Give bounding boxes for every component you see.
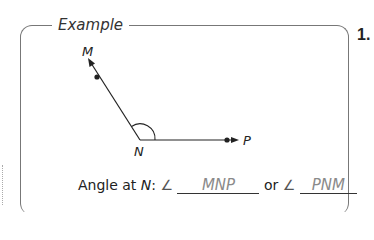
angle-question: Angle at N: ∠ MNP or ∠ PNM [78, 176, 357, 194]
label-n: N [134, 145, 144, 159]
angle-symbol-icon-2: ∠ [283, 177, 296, 193]
answer-blank-2[interactable]: PNM [300, 177, 357, 194]
answer-blank-1[interactable]: MNP [177, 177, 259, 194]
point-m-dot [94, 74, 99, 79]
connector-or: or [264, 177, 278, 193]
angle-symbol-icon: ∠ [160, 177, 173, 193]
arrowhead-p-icon [231, 137, 239, 143]
point-p-dot [224, 137, 229, 142]
label-p: P [243, 134, 251, 148]
question-prefix: Angle at [78, 177, 141, 193]
ray-nm [91, 63, 140, 140]
question-vertex: N [141, 177, 151, 193]
arrowhead-m-icon [88, 58, 95, 67]
question-colon: : [151, 177, 156, 193]
label-m: M [82, 45, 93, 59]
